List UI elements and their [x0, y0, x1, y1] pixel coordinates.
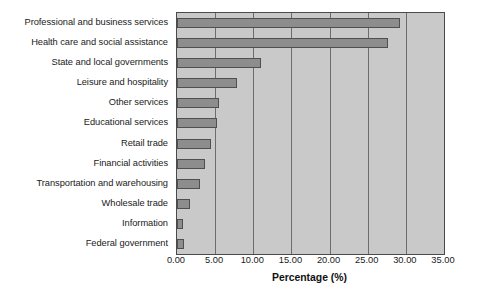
gridline — [291, 13, 292, 254]
gridline — [253, 13, 254, 254]
bar — [177, 179, 200, 189]
gridline — [330, 13, 331, 254]
category-axis: Professional and business servicesHealth… — [0, 12, 172, 253]
x-axis-title: Percentage (%) — [176, 272, 443, 283]
bar — [177, 98, 219, 108]
bar — [177, 239, 184, 249]
bar — [177, 38, 388, 48]
x-axis-tick-labels: 0.005.0010.0015.0020.0025.0030.0035.00 — [0, 255, 480, 269]
gridline — [368, 13, 369, 254]
bar — [177, 78, 237, 88]
category-label: State and local governments — [0, 57, 168, 67]
category-label: Transportation and warehousing — [0, 178, 168, 188]
plot-area — [176, 12, 445, 255]
category-label: Other services — [0, 97, 168, 107]
bar — [177, 139, 211, 149]
gridline — [215, 13, 216, 254]
category-label: Health care and social assistance — [0, 37, 168, 47]
category-label: Professional and business services — [0, 17, 168, 27]
category-label: Federal government — [0, 238, 168, 248]
category-label: Information — [0, 218, 168, 228]
bar — [177, 159, 205, 169]
gridline — [406, 13, 407, 254]
category-label: Financial activities — [0, 158, 168, 168]
x-tick-label: 35.00 — [421, 255, 465, 266]
category-label: Leisure and hospitality — [0, 77, 168, 87]
bar — [177, 18, 400, 28]
category-label: Wholesale trade — [0, 198, 168, 208]
bar-chart-figure: Professional and business servicesHealth… — [0, 0, 480, 305]
bar — [177, 118, 217, 128]
bar — [177, 58, 261, 68]
bar — [177, 199, 190, 209]
category-label: Retail trade — [0, 138, 168, 148]
bar — [177, 219, 183, 229]
category-label: Educational services — [0, 117, 168, 127]
